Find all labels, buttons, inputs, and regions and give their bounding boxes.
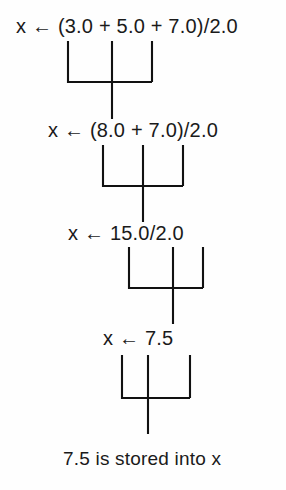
- connector-4: [122, 355, 190, 434]
- connector-1-bracket: [68, 41, 152, 82]
- result-line: 7.5 is stored into x: [63, 448, 221, 469]
- connector-3-bracket: [129, 247, 203, 288]
- step-2-line: x ← (8.0 + 7.0)/2.0: [48, 119, 218, 141]
- diagram-canvas: x ← (3.0 + 5.0 + 7.0)/2.0 x ← (8.0 + 7.0…: [0, 0, 286, 490]
- connector-4-bracket: [122, 355, 190, 398]
- connector-1: [68, 41, 152, 119]
- connector-3: [129, 247, 203, 324]
- evaluation-trace-diagram: x ← (3.0 + 5.0 + 7.0)/2.0 x ← (8.0 + 7.0…: [0, 0, 286, 490]
- connector-2: [103, 145, 183, 222]
- step-3-line: x ← 15.0/2.0: [68, 222, 184, 244]
- step-1-line: x ← (3.0 + 5.0 + 7.0)/2.0: [16, 15, 238, 37]
- step-4-line: x ← 7.5: [103, 327, 173, 349]
